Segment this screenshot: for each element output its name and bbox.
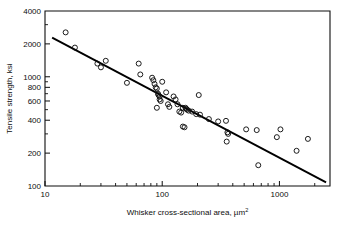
y-tick-label: 2000 [23, 40, 41, 49]
y-axis-title: Tensile strength, ksi [5, 63, 14, 133]
data-point-marker [224, 139, 229, 144]
data-point-marker [244, 127, 249, 132]
data-point-marker [256, 163, 261, 168]
data-point-marker [103, 58, 108, 63]
y-tick-label: 600 [28, 97, 42, 106]
y-tick-label: 200 [28, 149, 42, 158]
y-tick-label: 800 [28, 83, 42, 92]
data-point-marker [154, 86, 159, 91]
data-point-marker [154, 105, 159, 110]
data-point-marker [294, 148, 299, 153]
data-point-marker [98, 65, 103, 70]
y-tick-label: 400 [28, 116, 42, 125]
scatter-plot-svg: 101001000100200400600800100020004000Whis… [0, 0, 342, 229]
x-axis-title-exponent: 2 [245, 207, 248, 213]
data-point-marker [278, 127, 283, 132]
data-point-marker [124, 80, 129, 85]
x-tick-label: 1000 [271, 190, 289, 199]
y-tick-label: 1000 [23, 73, 41, 82]
y-tick-label: 100 [28, 182, 42, 191]
data-point-marker [223, 118, 228, 123]
y-tick-label: 4000 [23, 7, 41, 16]
x-axis-title-text: Whisker cross-sectional area, µm [127, 208, 246, 217]
x-axis-title: Whisker cross-sectional area, µm2 [127, 207, 249, 217]
data-point-marker [63, 30, 68, 35]
chart-figure: 101001000100200400600800100020004000Whis… [0, 0, 342, 229]
plot-frame [45, 11, 330, 186]
data-point-marker [138, 72, 143, 77]
data-point-marker [136, 61, 141, 66]
data-point-marker [274, 135, 279, 140]
x-tick-label: 10 [41, 190, 50, 199]
data-point-marker [216, 119, 221, 124]
data-point-marker [254, 128, 259, 133]
data-point-marker [305, 136, 310, 141]
data-point-group [63, 30, 310, 168]
data-point-marker [164, 90, 169, 95]
x-tick-label: 100 [156, 190, 170, 199]
data-point-marker [196, 93, 201, 98]
data-point-marker [160, 79, 165, 84]
